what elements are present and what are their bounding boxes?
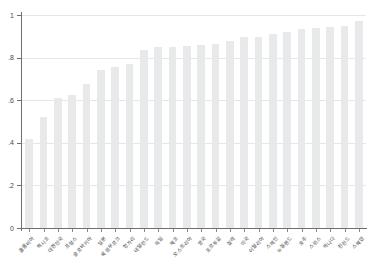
bar [240, 37, 247, 228]
bar [83, 84, 90, 228]
x-tick-mark [345, 229, 346, 232]
bar [111, 67, 118, 228]
x-tick-mark [29, 229, 30, 232]
x-tick-mark [44, 229, 45, 232]
y-tick-mark [17, 15, 22, 16]
x-tick-mark [58, 229, 59, 232]
bar [154, 47, 161, 228]
x-tick-mark [87, 229, 88, 232]
bar [355, 21, 362, 228]
bar [341, 26, 348, 228]
x-tick-mark [216, 229, 217, 232]
y-tick-label: .4 [8, 139, 14, 146]
x-tick-mark [130, 229, 131, 232]
x-tick-mark [201, 229, 202, 232]
x-tick-mark [173, 229, 174, 232]
x-tick-label: 캐나다 [323, 236, 337, 250]
x-tick-mark [359, 229, 360, 232]
y-tick-label: .2 [8, 182, 14, 189]
bar [212, 44, 219, 228]
y-tick-mark [17, 58, 22, 59]
x-tick-label: 핀란드 [337, 236, 351, 250]
bar-chart: 0.2.4.6.81 콜롬비아멕시코대한민국프랑스슬로바키아일본룩셈부르크헝가리… [0, 0, 370, 273]
x-tick-mark [287, 229, 288, 232]
y-tick-label: .6 [8, 97, 14, 104]
bar [312, 28, 319, 228]
x-tick-label: 콜롬비아 [18, 236, 36, 254]
y-axis-line [21, 12, 22, 231]
bar [40, 117, 47, 228]
bar [183, 46, 190, 228]
x-tick-mark [330, 229, 331, 232]
x-tick-label: 스위스 [308, 236, 322, 250]
x-tick-mark [259, 229, 260, 232]
x-tick-mark [316, 229, 317, 232]
bar [298, 29, 305, 228]
bar [126, 64, 133, 228]
x-tick-mark [72, 229, 73, 232]
bars-group [22, 15, 366, 228]
y-tick-label: 0 [10, 225, 14, 232]
x-tick-mark [187, 229, 188, 232]
y-tick-mark [17, 185, 22, 186]
x-tick-mark [144, 229, 145, 232]
bar [326, 27, 333, 228]
bar [140, 50, 147, 228]
y-tick-mark [17, 143, 22, 144]
bar [68, 95, 75, 228]
x-tick-label: 스웨덴 [351, 236, 365, 250]
x-tick-mark [115, 229, 116, 232]
bar [97, 70, 104, 228]
x-tick-label: 칠레 [226, 236, 237, 247]
bar [255, 37, 262, 228]
x-tick-label: 독일 [154, 236, 165, 247]
x-tick-mark [158, 229, 159, 232]
bar [25, 139, 32, 228]
bar [54, 98, 61, 228]
bar [269, 34, 276, 228]
y-tick-mark [17, 100, 22, 101]
bar [226, 41, 233, 228]
bar [283, 32, 290, 228]
y-tick-mark [17, 228, 22, 229]
y-tick-label: .8 [8, 54, 14, 61]
y-tick-label: 1 [10, 12, 14, 19]
x-tick-mark [302, 229, 303, 232]
bar [197, 45, 204, 228]
bar [169, 47, 176, 228]
x-tick-mark [273, 229, 274, 232]
x-tick-mark [230, 229, 231, 232]
x-tick-mark [244, 229, 245, 232]
x-tick-mark [101, 229, 102, 232]
